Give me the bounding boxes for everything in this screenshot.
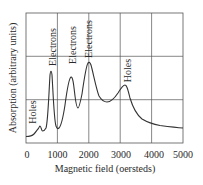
x-axis-label: Magnetic field (oersteds) xyxy=(55,163,156,175)
annotation-electrons-2: Electrons xyxy=(67,26,78,64)
annotation-holes-2: Holes xyxy=(122,59,133,82)
x-tick-label: 1000 xyxy=(47,149,67,160)
annotation-electrons-3: Electrons xyxy=(83,20,94,58)
annotations: Holes Electrons Electrons Electrons Hole… xyxy=(27,20,133,124)
annotation-electrons-1: Electrons xyxy=(47,28,58,66)
absorption-chart: Holes Electrons Electrons Electrons Hole… xyxy=(0,0,203,185)
x-tick-label: 3000 xyxy=(111,149,131,160)
x-axis-ticks: 0 1000 2000 3000 4000 5000 xyxy=(25,149,194,160)
x-tick-label: 0 xyxy=(25,149,30,160)
annotation-holes-1: Holes xyxy=(27,100,38,123)
x-tick-label: 4000 xyxy=(144,149,164,160)
x-tick-label: 2000 xyxy=(79,149,99,160)
y-axis-label: Absorption (arbitrary units) xyxy=(7,23,19,134)
x-tick-label: 5000 xyxy=(173,149,193,160)
